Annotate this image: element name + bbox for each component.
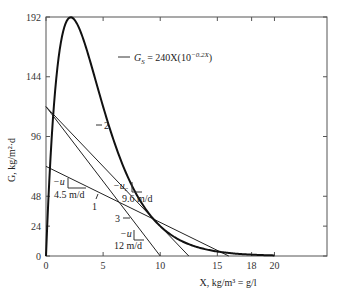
slope-triangle-3 bbox=[134, 230, 144, 240]
x-tick-label: 18 bbox=[247, 260, 257, 271]
slope-triangle-1 bbox=[68, 178, 86, 188]
y-tick-label: 48 bbox=[31, 191, 41, 202]
line-3-number: 3 bbox=[115, 213, 120, 224]
x-tick-label: 20 bbox=[269, 260, 279, 271]
x-tick-label: 5 bbox=[101, 260, 106, 271]
x-tick-label: 15 bbox=[212, 260, 222, 271]
slope-u-label-1: −u bbox=[53, 176, 65, 187]
slope-value-label-3: 12 m/d bbox=[114, 240, 142, 251]
line-2-number: 2 bbox=[104, 120, 109, 131]
x-tick-label: 10 bbox=[155, 260, 165, 271]
y-tick-label: 144 bbox=[26, 71, 41, 82]
y-axis-label: G, kg/m²·d bbox=[6, 138, 17, 182]
slope-u-label-3: −u bbox=[120, 228, 132, 239]
y-tick-label: 0 bbox=[36, 251, 41, 262]
y-tick-label: 192 bbox=[26, 12, 41, 23]
chart: 05101518200244896144192X, kg/m³ = g/lG, … bbox=[0, 0, 344, 302]
x-tick-label: 0 bbox=[44, 260, 49, 271]
curve-label: GS = 240X(10−0.2X) bbox=[134, 51, 212, 66]
slope-u-label-2: −uc bbox=[113, 180, 129, 193]
slope-value-label-2: 9.6 m/d bbox=[122, 193, 153, 204]
line-1-number: 1 bbox=[92, 201, 97, 212]
line-1-leader bbox=[96, 194, 98, 199]
y-tick-label: 24 bbox=[31, 221, 41, 232]
y-tick-label: 96 bbox=[31, 131, 41, 142]
slope-value-label-1: 4.5 m/d bbox=[54, 189, 85, 200]
x-axis-label: X, kg/m³ = g/l bbox=[200, 277, 257, 288]
